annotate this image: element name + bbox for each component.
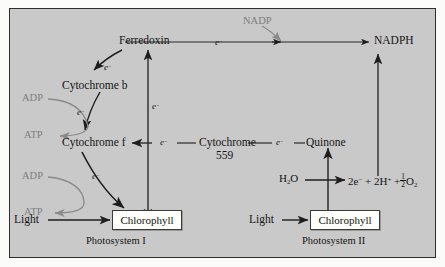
chlorophyll-box-ps2[interactable]: Chlorophyll: [310, 210, 380, 230]
electron-label-cytf-chain: e−: [160, 138, 168, 147]
node-ferredoxin: Ferredoxin: [119, 35, 169, 47]
node-nadph: NADPH: [374, 35, 414, 47]
electron-label-cytf-chl: e−: [92, 172, 100, 181]
electron-label-quinone-chain: e−: [276, 138, 284, 147]
input-light-ps2: Light: [249, 214, 274, 226]
caption-photosystem-2: Photosystem II: [302, 236, 365, 247]
chlorophyll-box-ps1[interactable]: Chlorophyll: [112, 210, 182, 230]
cofactor-atp-cytb: ATP: [24, 130, 43, 141]
caption-photosystem-1: Photosystem I: [86, 236, 146, 247]
node-nadp: NADP: [243, 16, 272, 27]
node-cytochrome-f: Cytochrome f: [62, 137, 126, 149]
electron-label-cytb-cytf: e−: [77, 108, 85, 117]
node-cytochrome-b: Cytochrome b: [62, 80, 127, 92]
electron-label-vertical-ps1: e−: [152, 102, 160, 111]
node-cytochrome-559-line1: Cytochrome: [199, 137, 256, 149]
node-cytochrome-559-line2: 559: [216, 150, 233, 162]
diagram-canvas: Ferredoxin Cytochrome b Cytochrome f Cyt…: [0, 0, 445, 267]
cofactor-adp-cytb: ADP: [22, 93, 43, 104]
cofactor-adp-ps1: ADP: [22, 171, 43, 182]
node-quinone: Quinone: [306, 137, 346, 149]
water-reactant: H2O: [279, 173, 298, 186]
electron-label-fd-cytb: e−: [104, 63, 112, 72]
input-light-ps1: Light: [14, 214, 39, 226]
electron-label-top-nadph: e−: [215, 38, 223, 47]
water-products: 2e− + 2H+ +12O2: [348, 173, 417, 189]
